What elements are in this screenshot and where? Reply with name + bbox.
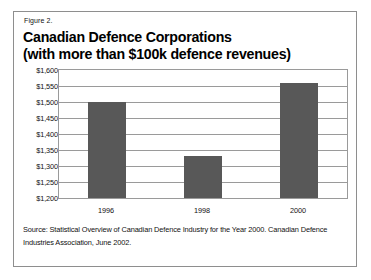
- x-axis-tick-label: 2000: [290, 206, 306, 215]
- y-axis-tick-label: $1,500: [14, 98, 58, 107]
- x-axis-tick-label: 1996: [98, 206, 114, 215]
- figure-container: Figure 2. Canadian Defence Corporations …: [13, 11, 357, 267]
- y-axis-tick-label: $1,250: [14, 178, 58, 187]
- y-axis-tick-label: $1,550: [14, 82, 58, 91]
- y-axis-tick-label: $1,300: [14, 162, 58, 171]
- y-axis-tick-label: $1,450: [14, 114, 58, 123]
- y-axis-tick-label: $1,600: [14, 66, 58, 75]
- source-note: Source: Statistical Overview of Canadian…: [23, 224, 349, 249]
- chart-title-line-2: (with more than $100k defence revenues): [23, 46, 353, 63]
- chart-plot-area: [58, 69, 348, 199]
- y-axis-tick-label: $1,200: [14, 194, 58, 203]
- y-axis-tick-label: $1,350: [14, 146, 58, 155]
- x-axis-tick-labels: 199619982000: [58, 202, 348, 218]
- x-axis-tick-label: 1998: [194, 206, 210, 215]
- page-title: Canadian Defence Corporations (with more…: [23, 29, 353, 62]
- bar-2000: [280, 83, 318, 198]
- figure-number-label: Figure 2.: [24, 17, 53, 24]
- y-axis-tick-labels: $1,600$1,550$1,500$1,450$1,400$1,350$1,3…: [14, 69, 58, 199]
- y-axis-tick-label: $1,400: [14, 130, 58, 139]
- chart-title-line-1: Canadian Defence Corporations: [23, 29, 232, 45]
- chart-plot-wrapper: $1,600$1,550$1,500$1,450$1,400$1,350$1,3…: [14, 69, 358, 224]
- bar-1998: [184, 156, 222, 198]
- bar-1996: [88, 102, 126, 198]
- bar-series-layer: [59, 70, 347, 198]
